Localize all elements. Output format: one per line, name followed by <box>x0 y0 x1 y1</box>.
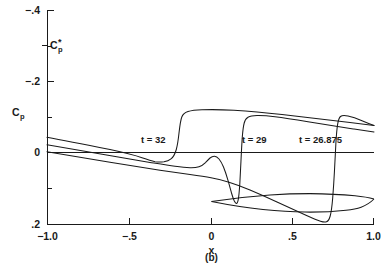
y-axis-label-text: C <box>12 106 20 118</box>
y-tick-label-neg04: −.4 <box>25 4 40 16</box>
critical-cp-sup: * <box>58 37 62 47</box>
critical-cp-label: C p * <box>50 37 63 54</box>
airfoil-lower-surface <box>212 199 375 212</box>
y-axis-label: C p <box>12 106 25 121</box>
critical-cp-text: C <box>50 39 58 51</box>
curve-label-t-26875: t = 26.875 <box>299 134 343 145</box>
x-tick-label-05: .5 <box>288 230 297 242</box>
x-axis-ticks <box>48 218 374 225</box>
y-axis-label-sub: p <box>20 112 25 121</box>
chart-svg: −.4 −.2 0 .2 −1.0 −.5 0 .5 1.0 C p C p *… <box>0 0 388 263</box>
x-tick-label-neg05: −.5 <box>122 230 137 242</box>
curve-t-26875 <box>47 115 374 222</box>
x-tick-label-zero: 0 <box>209 230 215 242</box>
airfoil-upper-surface <box>212 194 375 202</box>
y-tick-label-pos02: .2 <box>31 218 40 230</box>
y-tick-label-zero: 0 <box>34 146 40 158</box>
curve-label-t-32: t = 32 <box>141 134 166 145</box>
figure-caption: (b) <box>205 252 218 263</box>
curve-label-t-29: t = 29 <box>242 134 267 145</box>
x-tick-label-1: 1.0 <box>366 230 381 242</box>
x-tick-label-neg1: −1.0 <box>37 230 58 242</box>
pressure-coefficient-chart: −.4 −.2 0 .2 −1.0 −.5 0 .5 1.0 C p C p *… <box>0 0 388 263</box>
y-tick-label-neg02: −.2 <box>25 75 40 87</box>
